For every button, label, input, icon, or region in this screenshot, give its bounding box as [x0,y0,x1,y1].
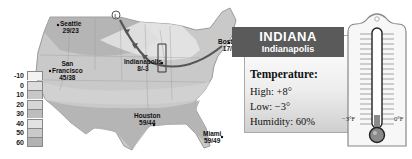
legend-swatch [27,100,43,109]
legend-row: 20 [6,100,43,110]
thermometer: −3°F 0°F [346,12,408,148]
temperature-heading: Temperature: [250,68,318,80]
legend-row: 40 [6,119,43,129]
legend-swatch [27,119,43,128]
state-name: INDIANA [232,29,344,44]
thermometer-left-label: −3°F [342,115,355,122]
weather-info: Temperature: High: +8° Low: −3° Humidity… [250,68,318,129]
legend-row: 60 [6,138,43,148]
city-houston: Houston59/44 [134,112,160,126]
thermometer-right-label: 0°F [394,115,403,122]
legend-row: -10 [6,71,43,81]
low-temp: Low: −3° [250,99,318,114]
city-miami: Miami59/49 [203,130,221,144]
thermometer-icon [346,12,408,148]
legend-row: 10 [6,90,43,100]
legend-swatch [27,81,43,90]
legend-row: 30 [6,109,43,119]
legend-swatch [27,137,43,147]
temperature-legend: -10 0 10 20 30 40 50 60 [6,71,43,147]
legend-swatch [27,128,43,137]
legend-swatch [27,71,43,80]
state-banner: INDIANA Indianapolis [232,27,344,57]
legend-swatch [27,90,43,99]
city-san-francisco: SanFrancisco45/38 [52,60,83,81]
city-seattle: Seattle29/23 [60,20,81,34]
humidity: Humidity: 60% [250,114,318,129]
legend-row: 0 [6,81,43,91]
svg-text:L: L [114,13,118,19]
legend-swatch [27,109,43,118]
capital-name: Indianapolis [232,44,344,55]
high-temp: High: +8° [250,84,318,99]
legend-row: 50 [6,128,43,138]
city-indianapolis: Indianapolis8/-3 [124,58,162,72]
